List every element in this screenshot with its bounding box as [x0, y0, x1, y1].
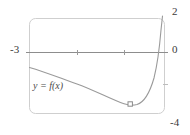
y-axis-top-label: 2 [172, 6, 178, 17]
plot-canvas [0, 0, 190, 135]
y-axis-bottom-label: -4 [170, 117, 179, 128]
figure-container: -3 2 0 -4 y = f(x) [0, 0, 190, 135]
curve-equation-label: y = f(x) [33, 80, 63, 91]
x-axis-left-label: -3 [10, 44, 19, 55]
local-minimum-marker [128, 102, 132, 106]
y-axis-origin-label: 0 [172, 44, 178, 55]
